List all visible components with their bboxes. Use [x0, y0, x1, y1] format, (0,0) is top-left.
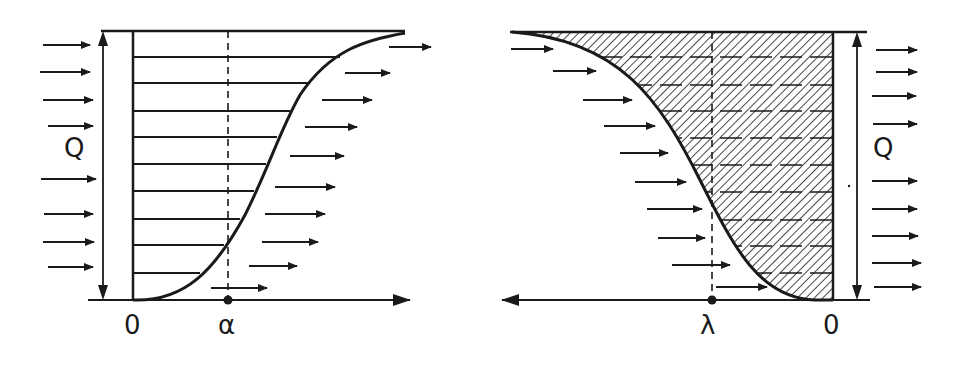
right-q-arrowhead-up: [852, 32, 862, 47]
alpha-label: α: [218, 310, 235, 340]
stray-dot: [848, 185, 850, 187]
lambda-point: [708, 296, 717, 305]
left-q-arrowhead-up: [98, 31, 108, 46]
alpha-point: [224, 296, 233, 305]
left-flow-panel: Q 0 α: [40, 31, 431, 340]
right-outflow-arrows: [872, 50, 921, 287]
left-strata-lines: [133, 57, 340, 273]
right-origin-label: 0: [823, 310, 840, 340]
right-q-label: Q: [873, 133, 893, 163]
right-hatched-region: [512, 32, 833, 300]
right-q-arrowhead-down: [852, 285, 862, 300]
right-flow-panel: Q λ 0: [502, 32, 921, 340]
left-q-arrowhead-down: [98, 285, 108, 300]
lambda-label: λ: [700, 310, 715, 340]
left-origin-label: 0: [124, 310, 141, 340]
left-q-label: Q: [64, 133, 84, 163]
diagram-canvas: Q 0 α: [0, 0, 962, 365]
